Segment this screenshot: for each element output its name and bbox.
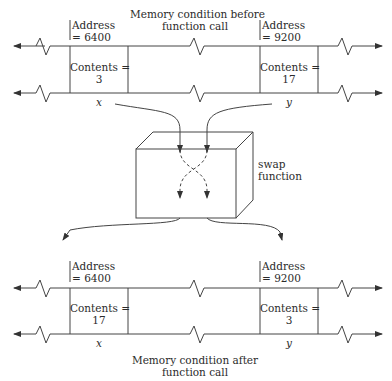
caption-after-line1: Memory condition after [130, 354, 260, 366]
address-value: = 9200 [262, 272, 305, 284]
contents-value: 17 [70, 314, 128, 326]
address-x-after: Address = 6400 [72, 260, 115, 284]
address-label: Address [72, 19, 115, 31]
contents-label: Contents = [260, 61, 318, 73]
var-x-before: x [90, 96, 108, 108]
contents-y-before: Contents = 17 [260, 61, 318, 85]
swap-function-label: swap function [258, 158, 302, 182]
var-y-before: y [280, 96, 298, 108]
contents-label: Contents = [70, 302, 128, 314]
contents-x-before: Contents = 3 [70, 61, 128, 85]
caption-after: Memory condition after function call [130, 354, 260, 378]
swap-label-line2: function [258, 170, 302, 182]
address-x-before: Address = 6400 [72, 19, 115, 43]
swap-label-line1: swap [258, 158, 302, 170]
contents-label: Contents = [260, 302, 318, 314]
caption-before-line1: Memory condition before [130, 8, 260, 20]
address-value: = 6400 [72, 272, 115, 284]
address-y-before: Address = 9200 [262, 19, 305, 43]
address-label: Address [262, 19, 305, 31]
caption-after-line2: function call [130, 366, 260, 378]
caption-before-line2: function call [130, 20, 260, 32]
address-value: = 9200 [262, 31, 305, 43]
contents-label: Contents = [70, 61, 128, 73]
address-label: Address [72, 260, 115, 272]
contents-y-after: Contents = 3 [260, 302, 318, 326]
var-y-after: y [280, 337, 298, 349]
contents-value: 17 [260, 73, 318, 85]
var-x-after: x [90, 337, 108, 349]
diagram-lines [0, 0, 392, 381]
contents-value: 3 [70, 73, 128, 85]
address-label: Address [262, 260, 305, 272]
contents-x-after: Contents = 17 [70, 302, 128, 326]
caption-before: Memory condition before function call [130, 8, 260, 32]
address-y-after: Address = 9200 [262, 260, 305, 284]
swap-function-diagram: Memory condition before function call Ad… [0, 0, 392, 381]
contents-value: 3 [260, 314, 318, 326]
swap-function-box [136, 132, 253, 218]
address-value: = 6400 [72, 31, 115, 43]
